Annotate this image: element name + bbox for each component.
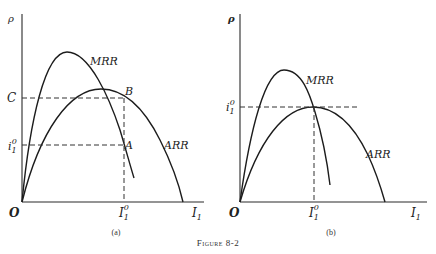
y-axis-label: ρ [7, 13, 14, 24]
mrr-curve [240, 70, 330, 202]
i-label: i10 [8, 137, 17, 155]
mrr-curve [22, 52, 134, 202]
origin-label: O [229, 206, 240, 220]
origin-label: O [9, 206, 20, 220]
panel-b-label: (b) [326, 228, 336, 237]
mrr-label: MRR [305, 74, 334, 87]
i-label: i10 [226, 98, 235, 116]
figure-8-2: ρ C i10 B A MRR ARR O I10 I1 (a) ρ i10 M… [0, 0, 436, 254]
x-axis-label: I1 [410, 206, 421, 222]
I-label: I10 [118, 203, 129, 222]
I-label: I10 [308, 203, 319, 222]
arr-curve [240, 107, 385, 202]
arr-label: ARR [163, 139, 189, 152]
panel-a-label: (a) [112, 228, 121, 237]
point-c-label: C [7, 91, 16, 105]
panel-a: ρ C i10 B A MRR ARR O I10 I1 (a) [7, 13, 204, 237]
arr-label: ARR [365, 148, 391, 161]
point-a-label: A [124, 139, 133, 152]
x-axis-label: I1 [191, 206, 202, 222]
y-axis-label: ρ [227, 13, 235, 24]
point-b-label: B [124, 85, 133, 98]
figure-caption: Figure 8-2 [197, 238, 240, 248]
mrr-label: MRR [89, 55, 118, 68]
panel-b: ρ i10 MRR ARR O I10 I1 (b) [226, 13, 427, 237]
